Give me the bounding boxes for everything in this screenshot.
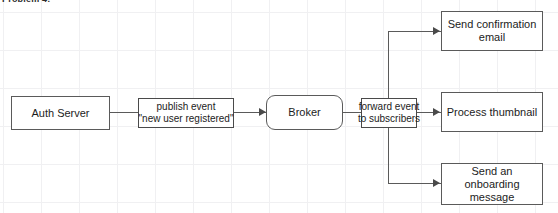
node-auth-server[interactable]: Auth Server [11, 96, 110, 130]
node-broker[interactable]: Broker [266, 95, 343, 130]
edge-label-forward-event-line2: to subscribers [358, 113, 420, 125]
node-send-confirmation-email[interactable]: Send confirmation email [441, 11, 543, 51]
node-auth-server-label: Auth Server [31, 107, 89, 120]
arrowhead-to-process-thumbnail [433, 108, 440, 116]
arrowhead-to-broker [259, 108, 266, 116]
node-send-confirmation-email-line2: email [479, 31, 505, 44]
arrowhead-to-send-onboarding-message [433, 179, 440, 187]
node-send-onboarding-message-line1: Send an onboarding [445, 165, 539, 191]
edge-label-forward-event-line1: forward event [359, 101, 420, 113]
arrowhead-to-send-confirmation-email [433, 27, 440, 35]
page-heading: Problem 4: [2, 0, 51, 2]
node-send-confirmation-email-line1: Send confirmation [448, 18, 537, 31]
node-send-onboarding-message-line2: message [470, 191, 515, 204]
node-send-onboarding-message[interactable]: Send an onboarding message [441, 163, 543, 205]
edge-label-publish-event-line1: publish event [157, 101, 216, 113]
connector-auth-to-publishlabel [110, 112, 138, 113]
edge-label-publish-event-line2: "new user registered" [139, 113, 234, 125]
node-broker-label: Broker [288, 106, 320, 119]
edge-label-publish-event[interactable]: publish event "new user registered" [138, 98, 234, 128]
diagram-canvas: Problem 4: Auth Server publish event "ne… [0, 0, 558, 213]
node-process-thumbnail-line1: Process thumbnail [447, 106, 538, 119]
edge-label-forward-event[interactable]: forward event to subscribers [361, 98, 417, 128]
node-process-thumbnail[interactable]: Process thumbnail [441, 92, 543, 132]
